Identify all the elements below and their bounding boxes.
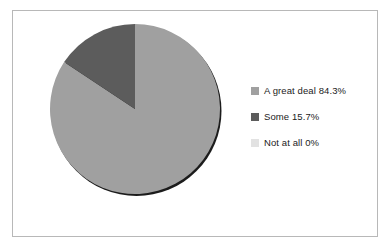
pie-chart xyxy=(47,21,223,199)
pie-chart-svg xyxy=(47,21,223,199)
legend-swatch-some xyxy=(251,113,259,121)
legend-swatch-not-at-all xyxy=(251,139,259,147)
legend-label-some: Some 15.7% xyxy=(264,111,319,123)
legend-item-not-at-all[interactable]: Not at all 0% xyxy=(251,137,371,149)
legend-label-a-great-deal: A great deal 84.3% xyxy=(264,85,346,97)
chart-frame: A great deal 84.3% Some 15.7% Not at all… xyxy=(12,10,378,237)
legend-item-some[interactable]: Some 15.7% xyxy=(251,111,371,123)
pie-slices xyxy=(50,24,220,194)
legend-item-a-great-deal[interactable]: A great deal 84.3% xyxy=(251,85,371,97)
legend-swatch-a-great-deal xyxy=(251,87,259,95)
legend-label-not-at-all: Not at all 0% xyxy=(264,137,319,149)
plot-area: A great deal 84.3% Some 15.7% Not at all… xyxy=(13,11,377,236)
chart-legend: A great deal 84.3% Some 15.7% Not at all… xyxy=(251,85,371,163)
